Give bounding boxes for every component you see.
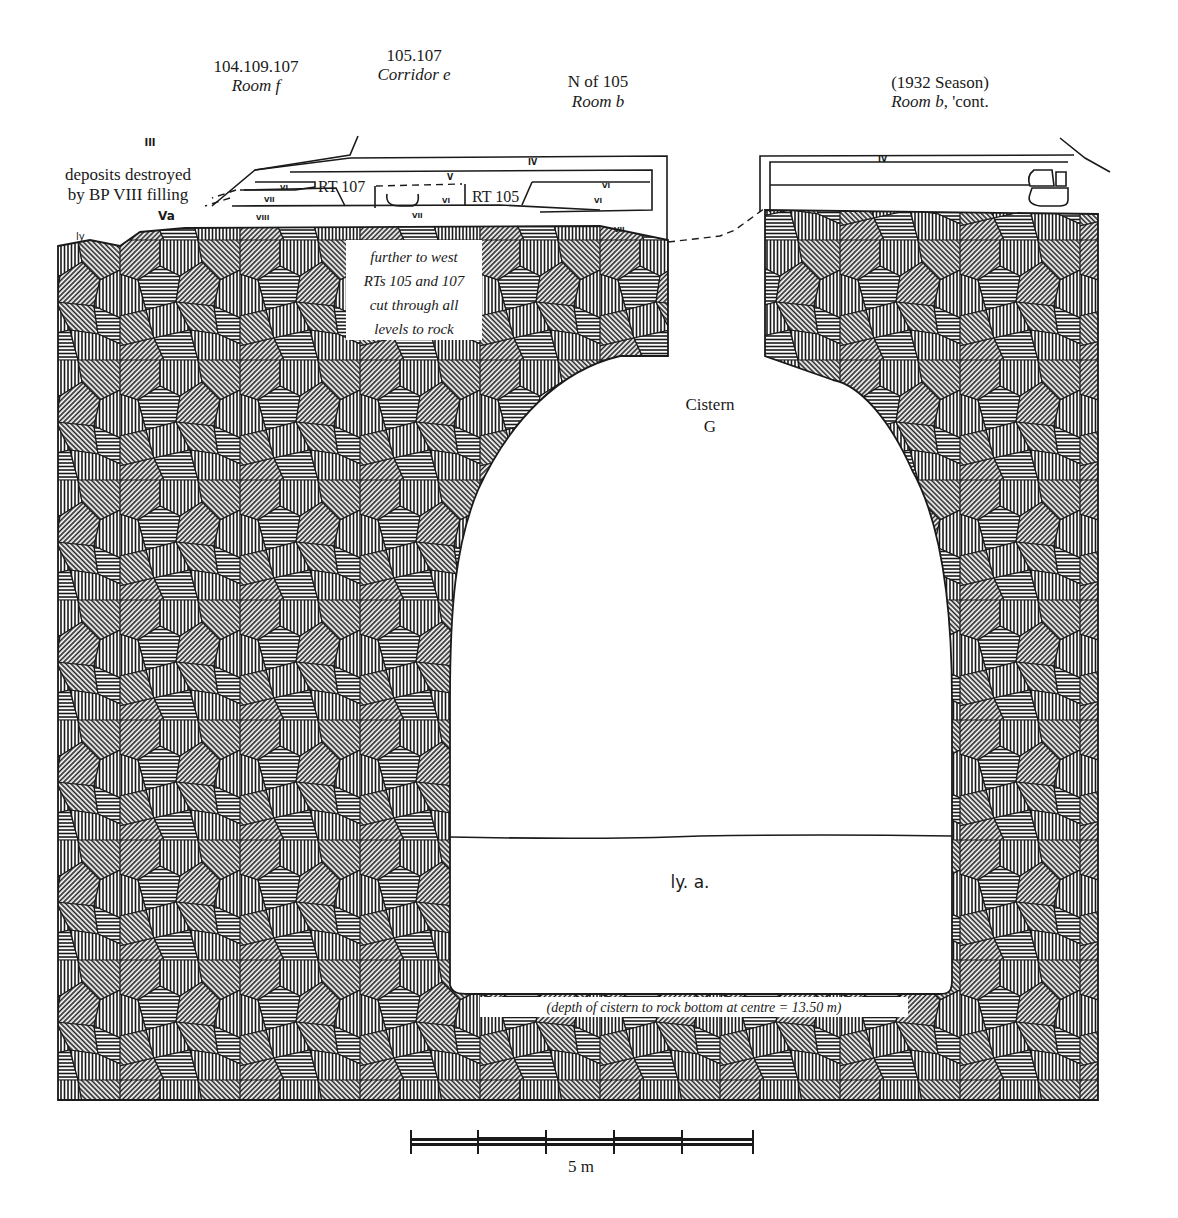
cistern-fill-label: ly. a. (671, 872, 710, 892)
trench-rt105-label: RT 105 (472, 188, 519, 205)
level-ly-left: ly (76, 231, 85, 242)
scale-bar-label: 5 m (568, 1157, 594, 1176)
deposits-destroyed-note-2: by BP VIII filling (68, 185, 189, 204)
west-note-line-3: cut through all (370, 297, 459, 313)
west-note-line-2: RTs 105 and 107 (363, 273, 466, 289)
cistern-fill-level-line (450, 835, 952, 838)
heading-room-b: Room b (571, 92, 624, 111)
level-iv-left: IV (528, 158, 538, 167)
heading-corridor-e-code: 105.107 (386, 46, 442, 65)
rock-mass-left (58, 210, 1098, 1100)
heading-room-f-code: 104.109.107 (214, 57, 300, 76)
level-va: Va (158, 209, 175, 223)
level-vi-d: VI (602, 182, 610, 190)
west-note-line-1: further to west (370, 249, 458, 265)
level-viii: VIII (256, 214, 269, 222)
heading-corridor-e: Corridor e (377, 65, 451, 84)
cistern-name-label: Cistern (685, 395, 735, 414)
level-v: V (447, 173, 454, 182)
scale-bar: 5 m (411, 1130, 753, 1176)
cistern-section-drawing: 104.109.107 Room f 105.107 Corridor e N … (0, 0, 1178, 1218)
heading-room-f: Room f (231, 76, 283, 95)
trench-rt107-label: RT 107 (318, 178, 365, 195)
heading-room-b-cont: Room b, 'cont. (890, 92, 989, 111)
depth-note: (depth of cistern to rock bottom at cent… (547, 1000, 842, 1016)
level-vii-c: VII (614, 226, 625, 234)
level-vii-a: VII (264, 196, 275, 204)
level-iv-right: IV (878, 155, 888, 164)
strata-outline-right (760, 155, 1074, 212)
cistern-letter-label: G (704, 417, 716, 436)
level-vii-b: VII (412, 212, 423, 220)
level-vi-c: VI (594, 197, 602, 205)
level-vi-b: VI (442, 197, 450, 205)
heading-1932-season: (1932 Season) (891, 73, 989, 92)
level-vi-a: VI (280, 184, 288, 192)
deposits-destroyed-note-1: deposits destroyed (65, 165, 192, 184)
west-note-line-4: levels to rock (374, 321, 454, 337)
heading-room-b-code: N of 105 (568, 72, 628, 91)
level-iii: III (144, 137, 155, 148)
